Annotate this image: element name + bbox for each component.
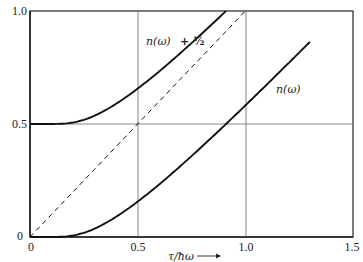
x-axis-label: τ/ħω — [168, 250, 194, 262]
y-tick-1.0: 1.0 — [12, 4, 27, 18]
x-tick-0.5: 0.5 — [131, 240, 146, 254]
label-n-plus-half-suffix: + ½ — [180, 35, 205, 48]
x-axis-arrowhead-icon — [216, 254, 221, 259]
x-tick-0: 0 — [28, 240, 34, 254]
x-tick-1.5: 1.5 — [345, 240, 360, 254]
planck-occupancy-chart: 1.0 0.5 0 0 0.5 1.0 1.5 τ/ħω n(ω) + ½ n(… — [0, 0, 363, 262]
y-tick-0: 0 — [17, 229, 23, 243]
label-n: n(ω) — [276, 83, 301, 96]
series-1-line — [30, 11, 226, 124]
label-n-plus-half: n(ω) — [146, 35, 171, 48]
series-0-line — [30, 42, 310, 237]
x-tick-1.0: 1.0 — [239, 240, 254, 254]
y-tick-0.5: 0.5 — [12, 117, 27, 131]
